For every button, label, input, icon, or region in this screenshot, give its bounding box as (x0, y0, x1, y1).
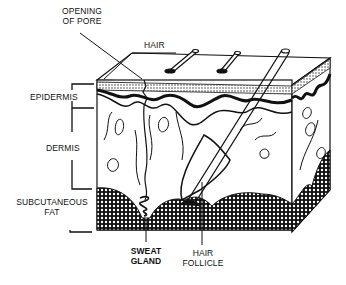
label-epidermis: EPIDERMIS (30, 92, 78, 102)
label-sweat-gland: SWEAT GLAND (126, 246, 166, 266)
label-hair-follicle: HAIR FOLLICLE (180, 248, 226, 268)
label-dermis: DERMIS (46, 143, 80, 153)
label-hair: HAIR (144, 40, 165, 50)
label-subcutaneous-fat: SUBCUTANEOUS FAT (12, 197, 92, 217)
label-opening-of-pore: OPENING OF PORE (52, 6, 112, 26)
